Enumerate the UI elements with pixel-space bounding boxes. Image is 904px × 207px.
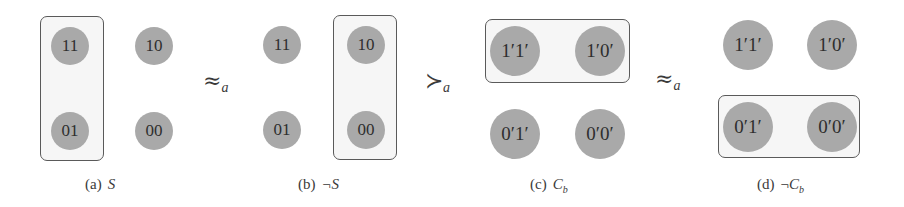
caption-symbol: ¬S bbox=[322, 176, 340, 192]
node-label: 1′1′ bbox=[734, 34, 761, 56]
caption-b: (b)¬S bbox=[298, 176, 339, 193]
node-d-0p0p: 0′0′ bbox=[807, 102, 857, 152]
caption-negation: ¬ bbox=[781, 176, 789, 192]
caption-symbol-sub: b bbox=[563, 184, 568, 195]
node-d-1p1p: 1′1′ bbox=[723, 20, 773, 70]
relation-subscript: a bbox=[673, 78, 680, 93]
caption-label: (c) bbox=[530, 176, 547, 192]
node-label: 11 bbox=[274, 35, 290, 55]
node-label: 10 bbox=[146, 36, 163, 56]
node-label: 1′0′ bbox=[586, 40, 613, 62]
node-label: 0′0′ bbox=[818, 116, 845, 138]
caption-symbol: S bbox=[108, 176, 116, 192]
node-label: 0′1′ bbox=[734, 116, 761, 138]
caption-a: (a)S bbox=[85, 176, 115, 193]
node-label: 01 bbox=[62, 121, 79, 141]
node-label: 11 bbox=[62, 36, 78, 56]
caption-label: (d) bbox=[757, 176, 775, 192]
node-b-01: 01 bbox=[263, 111, 301, 149]
node-a-00: 00 bbox=[135, 112, 173, 150]
node-c-0p1p: 0′1′ bbox=[490, 109, 540, 159]
node-label: 0′0′ bbox=[586, 123, 613, 145]
node-label: 00 bbox=[358, 120, 375, 140]
relation-subscript: a bbox=[443, 80, 450, 95]
relation-symbol: ≈ bbox=[203, 68, 221, 93]
caption-symbol-sub: b bbox=[799, 184, 804, 195]
caption-symbol: ¬Cb bbox=[781, 176, 804, 192]
node-label: 1′1′ bbox=[501, 40, 528, 62]
node-d-0p1p: 0′1′ bbox=[723, 102, 773, 152]
node-c-1p1p: 1′1′ bbox=[490, 26, 540, 76]
caption-symbol-main: C bbox=[789, 176, 799, 192]
caption-label: (a) bbox=[85, 176, 102, 192]
node-b-10: 10 bbox=[347, 26, 385, 64]
caption-c: (c)Cb bbox=[530, 176, 568, 195]
caption-symbol-main: C bbox=[553, 176, 563, 192]
node-label: 00 bbox=[146, 121, 163, 141]
node-c-0p0p: 0′0′ bbox=[575, 109, 625, 159]
relation-symbol: ≈ bbox=[655, 66, 673, 91]
relation-approx-1: ≈a bbox=[203, 68, 228, 96]
caption-label: (b) bbox=[298, 176, 316, 192]
node-a-11: 11 bbox=[51, 27, 89, 65]
node-b-11: 11 bbox=[263, 26, 301, 64]
node-label: 0′1′ bbox=[501, 123, 528, 145]
relation-symbol: ≻ bbox=[425, 68, 443, 93]
node-label: 10 bbox=[358, 35, 375, 55]
node-a-10: 10 bbox=[135, 27, 173, 65]
relation-succ: ≻a bbox=[425, 68, 450, 96]
node-a-01: 01 bbox=[51, 112, 89, 150]
caption-symbol: Cb bbox=[553, 176, 568, 192]
node-label: 1′0′ bbox=[818, 34, 845, 56]
node-b-00: 00 bbox=[347, 111, 385, 149]
caption-d: (d)¬Cb bbox=[757, 176, 804, 195]
relation-subscript: a bbox=[221, 80, 228, 95]
relation-approx-2: ≈a bbox=[655, 66, 680, 94]
node-label: 01 bbox=[274, 120, 291, 140]
node-c-1p0p: 1′0′ bbox=[575, 26, 625, 76]
node-d-1p0p: 1′0′ bbox=[807, 20, 857, 70]
